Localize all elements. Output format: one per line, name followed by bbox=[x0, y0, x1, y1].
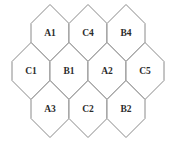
hex-label-b2: B2 bbox=[120, 104, 131, 114]
hex-label-b4: B4 bbox=[120, 28, 131, 38]
hexagonal-grid-diagram: A1C4B4C1B1A2C5A3C2B2 bbox=[0, 0, 176, 143]
hex-label-c2: C2 bbox=[82, 104, 94, 114]
hex-label-c4: C4 bbox=[82, 28, 94, 38]
hex-grid-canvas: A1C4B4C1B1A2C5A3C2B2 bbox=[0, 0, 176, 143]
hex-label-c5: C5 bbox=[139, 66, 151, 76]
hex-cell-layer: A1C4B4C1B1A2C5A3C2B2 bbox=[12, 5, 164, 138]
hex-label-c1: C1 bbox=[25, 66, 37, 76]
hex-label-a3: A3 bbox=[44, 104, 56, 114]
hex-label-b1: B1 bbox=[63, 66, 74, 76]
hex-label-a1: A1 bbox=[44, 28, 56, 38]
hex-label-a2: A2 bbox=[101, 66, 113, 76]
